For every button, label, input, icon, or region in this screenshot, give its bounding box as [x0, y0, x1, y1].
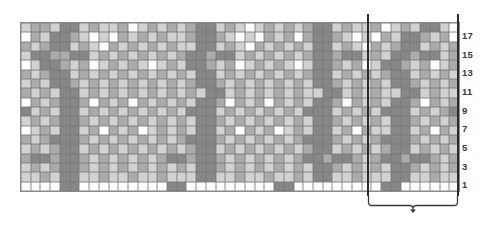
chart-cell — [225, 98, 235, 107]
chart-cell — [284, 126, 294, 135]
chart-cell — [235, 98, 245, 107]
chart-cell — [303, 70, 313, 79]
chart-cell — [401, 79, 411, 88]
chart-cell — [294, 32, 304, 41]
chart-cell — [294, 23, 304, 32]
chart-cell — [440, 23, 450, 32]
chart-cell — [148, 51, 158, 60]
chart-cell — [391, 79, 401, 88]
chart-cell — [31, 182, 41, 191]
chart-cell — [21, 116, 31, 125]
chart-cell — [294, 116, 304, 125]
chart-cell — [264, 144, 274, 153]
chart-cell — [430, 116, 440, 125]
chart-cell — [206, 88, 216, 97]
chart-cell — [245, 144, 255, 153]
chart-cell — [401, 126, 411, 135]
chart-cell — [216, 116, 226, 125]
chart-cell — [284, 32, 294, 41]
chart-cell — [284, 163, 294, 172]
chart-cell — [89, 88, 99, 97]
chart-cell — [118, 163, 128, 172]
chart-cell — [401, 42, 411, 51]
chart-cell — [391, 126, 401, 135]
chart-cell — [225, 135, 235, 144]
chart-cell — [79, 60, 89, 69]
chart-cell — [128, 98, 138, 107]
chart-cell — [371, 42, 381, 51]
chart-cell — [323, 154, 333, 163]
chart-cell — [332, 70, 342, 79]
chart-cell — [60, 135, 70, 144]
chart-cell — [148, 182, 158, 191]
chart-cell — [303, 126, 313, 135]
chart-cell — [332, 88, 342, 97]
chart-cell — [118, 23, 128, 32]
chart-cell — [303, 182, 313, 191]
chart-cell — [313, 51, 323, 60]
chart-cell — [79, 107, 89, 116]
chart-cell — [235, 32, 245, 41]
chart-cell — [284, 116, 294, 125]
chart-cell — [196, 70, 206, 79]
chart-cell — [50, 88, 60, 97]
chart-cell — [303, 51, 313, 60]
chart-cell — [235, 116, 245, 125]
chart-cell — [109, 107, 119, 116]
chart-cell — [40, 88, 50, 97]
chart-cell — [60, 107, 70, 116]
chart-cell — [40, 98, 50, 107]
chart-cell — [245, 107, 255, 116]
chart-cell — [225, 154, 235, 163]
chart-cell — [186, 154, 196, 163]
chart-cell — [264, 107, 274, 116]
chart-cell — [420, 42, 430, 51]
chart-cell — [255, 98, 265, 107]
chart-cell — [128, 135, 138, 144]
chart-cell — [128, 70, 138, 79]
chart-cell — [420, 60, 430, 69]
chart-cell — [420, 23, 430, 32]
row-number-label: 13 — [462, 68, 484, 78]
chart-cell — [420, 32, 430, 41]
chart-cell — [440, 79, 450, 88]
chart-cell — [371, 126, 381, 135]
chart-cell — [352, 182, 362, 191]
chart-cell — [401, 107, 411, 116]
chart-cell — [381, 182, 391, 191]
chart-cell — [264, 79, 274, 88]
chart-cell — [332, 116, 342, 125]
chart-cell — [138, 79, 148, 88]
chart-cell — [167, 60, 177, 69]
chart-cell — [60, 79, 70, 88]
chart-cell — [70, 60, 80, 69]
chart-cell — [274, 107, 284, 116]
chart-cell — [235, 154, 245, 163]
chart-cell — [264, 88, 274, 97]
chart-cell — [391, 98, 401, 107]
chart-cell — [118, 42, 128, 51]
chart-cell — [225, 107, 235, 116]
chart-cell — [40, 116, 50, 125]
chart-cell — [313, 32, 323, 41]
chart-cell — [284, 60, 294, 69]
chart-cell — [148, 60, 158, 69]
chart-cell — [99, 70, 109, 79]
chart-cell — [401, 23, 411, 32]
chart-cell — [109, 23, 119, 32]
chart-cell — [303, 135, 313, 144]
chart-cell — [128, 60, 138, 69]
chart-cell — [410, 163, 420, 172]
chart-cell — [371, 116, 381, 125]
chart-cell — [323, 51, 333, 60]
chart-cell — [274, 126, 284, 135]
chart-cell — [138, 98, 148, 107]
chart-cell — [109, 135, 119, 144]
chart-cell — [264, 32, 274, 41]
row-number-label: 1 — [462, 180, 484, 190]
chart-cell — [109, 42, 119, 51]
chart-cell — [118, 32, 128, 41]
chart-cell — [313, 163, 323, 172]
pattern-repeat-bracket — [367, 196, 459, 214]
chart-cell — [128, 88, 138, 97]
